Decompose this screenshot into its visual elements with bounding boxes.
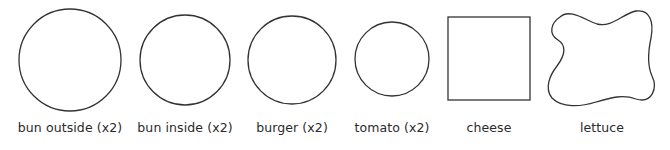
bun-outside-label: bun outside (x2) — [18, 120, 123, 135]
lettuce-label: lettuce — [580, 120, 624, 135]
tomato-circle — [355, 22, 429, 96]
bun-outside-circle — [19, 9, 121, 111]
burger-circle — [248, 16, 336, 104]
tomato-label: tomato (x2) — [354, 120, 429, 135]
cheese-label: cheese — [467, 120, 512, 135]
burger-label: burger (x2) — [256, 120, 328, 135]
lettuce-blob — [548, 11, 654, 106]
bun-inside-label: bun inside (x2) — [137, 120, 232, 135]
cheese-square — [448, 17, 530, 100]
bun-inside-circle — [140, 15, 230, 105]
